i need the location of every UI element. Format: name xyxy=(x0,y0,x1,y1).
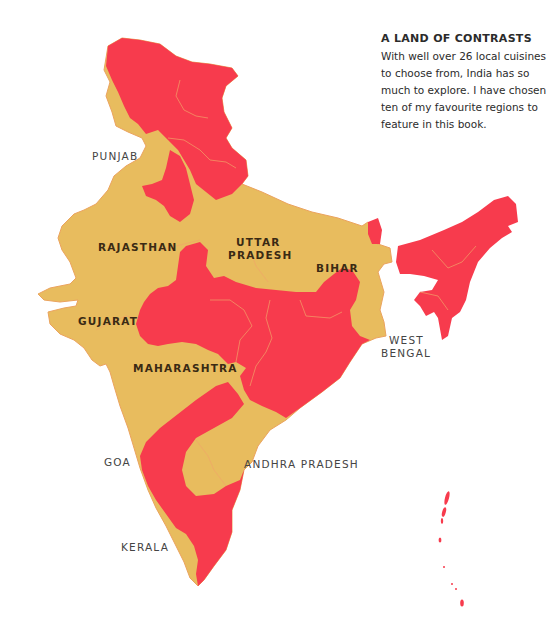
label-bihar: BIHAR xyxy=(316,262,359,275)
label-rajasthan: RAJASTHAN xyxy=(98,241,177,254)
label-west-bengal-line1: WEST xyxy=(389,334,424,347)
label-uttar-pradesh-line2: PRADESH xyxy=(228,249,293,262)
label-goa: GOA xyxy=(104,456,131,469)
info-title: A LAND OF CONTRASTS xyxy=(381,32,556,45)
info-body: With well over 26 local cuisines to choo… xyxy=(381,48,556,133)
label-punjab: PUNJAB xyxy=(92,150,138,163)
label-andhra-pradesh: ANDHRA PRADESH xyxy=(244,458,359,471)
label-maharashtra: MAHARASHTRA xyxy=(133,362,238,375)
info-box: A LAND OF CONTRASTS With well over 26 lo… xyxy=(381,32,556,133)
label-gujarat: GUJARAT xyxy=(78,315,138,328)
label-kerala: KERALA xyxy=(121,541,169,554)
label-uttar-pradesh-line1: UTTAR xyxy=(236,236,281,249)
northeast-states xyxy=(396,196,518,340)
andaman-nicobar-islands xyxy=(439,491,464,607)
label-west-bengal-line2: BENGAL xyxy=(381,347,431,360)
